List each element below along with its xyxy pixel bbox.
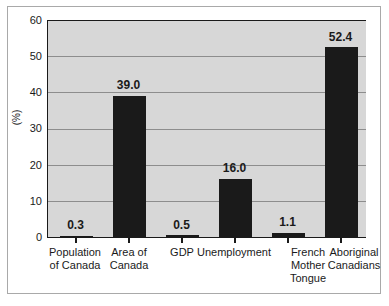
x-axis-tick <box>234 238 236 243</box>
gridline-50 <box>48 56 366 57</box>
y-tick-label: 0 <box>14 232 42 243</box>
bar-value-label: 52.4 <box>324 31 357 43</box>
bar-aboriginal-canadians[interactable] <box>325 47 358 237</box>
gridline-60 <box>48 20 366 21</box>
bar-value-label: 0.5 <box>165 219 198 231</box>
y-tick-label: 60 <box>14 15 42 26</box>
bar-unemployment[interactable] <box>219 179 252 237</box>
bar-area-of-canada[interactable] <box>113 96 146 237</box>
gridline-40 <box>48 92 366 93</box>
bar-value-label: 0.3 <box>59 219 92 231</box>
bar-value-label: 1.1 <box>271 216 304 228</box>
gridline-30 <box>48 129 366 130</box>
figure-container: (%) 60 50 40 30 20 10 0 0.3 39.0 0.5 16.… <box>0 0 389 306</box>
y-tick-label: 10 <box>14 196 42 207</box>
gridline-20 <box>48 165 366 166</box>
bar-population-of-canada[interactable] <box>60 236 93 237</box>
x-axis-tick <box>181 238 183 243</box>
bar-gdp[interactable] <box>166 235 199 237</box>
gridline-10 <box>48 201 366 202</box>
bar-value-label: 39.0 <box>112 79 145 91</box>
x-axis-tick <box>340 238 342 243</box>
x-axis-tick <box>287 238 289 243</box>
bar-french-mother-tongue[interactable] <box>272 233 305 237</box>
x-axis-tick <box>75 238 77 243</box>
x-axis-tick <box>128 238 130 243</box>
x-category-label-aboriginal-canadians: Aboriginal Canadians <box>320 246 388 272</box>
bar-value-label: 16.0 <box>218 162 251 174</box>
y-tick-label: 20 <box>14 160 42 171</box>
y-tick-label: 50 <box>14 51 42 62</box>
x-category-label-area-of-canada: Area of Canada <box>94 246 164 272</box>
y-tick-label: 30 <box>14 123 42 134</box>
y-tick-label: 40 <box>14 87 42 98</box>
plot-area <box>47 20 366 238</box>
x-category-label-unemployment: Unemployment <box>189 246 279 259</box>
